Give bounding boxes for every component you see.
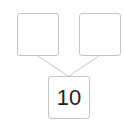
connector-right <box>69 56 99 76</box>
part-box-left[interactable] <box>17 13 59 56</box>
connector-left <box>38 56 68 76</box>
part-box-right[interactable] <box>79 13 121 56</box>
whole-box: 10 <box>48 76 90 119</box>
